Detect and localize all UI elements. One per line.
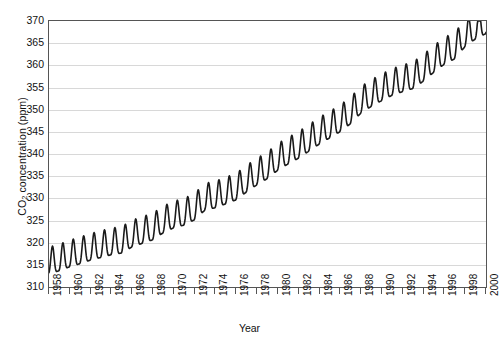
x-tick-label-1990: 1990 — [386, 274, 396, 296]
x-tick-label-1996: 1996 — [448, 274, 458, 296]
x-tick-label-1970: 1970 — [178, 274, 188, 296]
y-tick-label-325: 325 — [4, 215, 44, 226]
y-tick-label-355: 355 — [4, 82, 44, 93]
y-tick-label-335: 335 — [4, 170, 44, 181]
y-tick-label-310: 310 — [4, 281, 44, 292]
y-tick-label-315: 315 — [4, 259, 44, 270]
plot-area — [48, 20, 487, 288]
x-tick-label-1966: 1966 — [136, 274, 146, 296]
co2-line-path — [49, 21, 486, 273]
co2-keeling-curve-chart: CO2 concentration (ppm) 3103153203253303… — [0, 0, 499, 338]
y-tick-label-330: 330 — [4, 192, 44, 203]
x-tick-label-1992: 1992 — [407, 274, 417, 296]
x-tick-label-1984: 1984 — [324, 274, 334, 296]
x-tick-label-1962: 1962 — [95, 274, 105, 296]
y-tick-label-350: 350 — [4, 104, 44, 115]
y-tick-label-360: 360 — [4, 59, 44, 70]
x-tick-label-1958: 1958 — [53, 274, 63, 296]
x-axis-title: Year — [0, 322, 499, 334]
y-axis-tick-labels: 310315320325330335340345350355360365370 — [0, 0, 44, 338]
co2-series-line — [49, 21, 486, 287]
x-tick-label-1968: 1968 — [157, 274, 167, 296]
x-tick-label-1982: 1982 — [303, 274, 313, 296]
x-tick-label-1986: 1986 — [344, 274, 354, 296]
x-tick-label-1978: 1978 — [261, 274, 271, 296]
x-tick-label-1960: 1960 — [74, 274, 84, 296]
y-tick-label-365: 365 — [4, 37, 44, 48]
y-tick-label-345: 345 — [4, 126, 44, 137]
x-tick-label-1976: 1976 — [240, 274, 250, 296]
y-tick-label-320: 320 — [4, 237, 44, 248]
x-tick-label-1988: 1988 — [365, 274, 375, 296]
x-tick-label-1964: 1964 — [115, 274, 125, 296]
y-tick-label-340: 340 — [4, 148, 44, 159]
y-tick-label-370: 370 — [4, 15, 44, 26]
x-tick-label-2000: 2000 — [490, 274, 499, 296]
x-tick-label-1980: 1980 — [282, 274, 292, 296]
x-tick-label-1998: 1998 — [469, 274, 479, 296]
x-tick-label-1994: 1994 — [428, 274, 438, 296]
x-tick-label-1974: 1974 — [219, 274, 229, 296]
x-tick-label-1972: 1972 — [199, 274, 209, 296]
